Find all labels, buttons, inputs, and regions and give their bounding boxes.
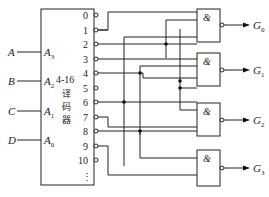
- signal-d-label: D: [7, 134, 16, 146]
- output-8-label: 8: [83, 126, 88, 137]
- output-9-label: 9: [83, 141, 88, 152]
- output-5-label: 5: [83, 83, 88, 94]
- output-1-label: 1: [83, 25, 88, 36]
- output-3-label: 3: [83, 54, 88, 65]
- decoder-circuit-diagram: A B C D A3 A2 A1 A0 4-16 译 码 器 0 1 2 3 4…: [0, 0, 269, 197]
- output-g0-label: G0: [253, 19, 265, 34]
- signal-b-label: B: [8, 75, 15, 87]
- output-g3-label: G3: [253, 162, 265, 177]
- gate-g0-symbol: &: [203, 12, 211, 23]
- output-6-label: 6: [83, 97, 88, 108]
- decoder-type-label: 4-16: [56, 74, 74, 85]
- output-bubbles: [94, 13, 98, 162]
- gate-g3-symbol: &: [203, 153, 211, 164]
- output-g2-label: G2: [253, 114, 265, 129]
- signal-a-label: A: [7, 46, 15, 58]
- output-g1-label: G1: [253, 64, 265, 79]
- output-2-label: 2: [83, 39, 88, 50]
- output-ellipsis: ⋮: [82, 171, 92, 182]
- decoder-name-char-3: 器: [62, 115, 71, 125]
- output-10-label: 10: [78, 155, 88, 166]
- output-0-label: 0: [83, 10, 88, 21]
- wiring: [98, 12, 197, 175]
- decoder-name-char-2: 码: [62, 102, 71, 112]
- decoder-name-char-1: 译: [62, 89, 71, 99]
- output-4-label: 4: [83, 68, 88, 79]
- gate-outputs: [220, 23, 250, 171]
- output-7-label: 7: [83, 112, 88, 123]
- signal-c-label: C: [8, 105, 16, 117]
- gate-g1-symbol: &: [203, 56, 211, 67]
- gate-g2-symbol: &: [203, 106, 211, 117]
